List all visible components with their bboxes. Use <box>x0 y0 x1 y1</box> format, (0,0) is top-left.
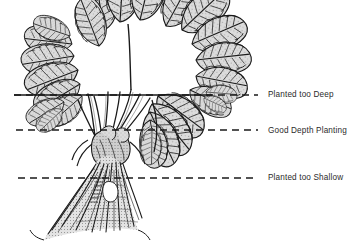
foliage-group <box>19 0 252 172</box>
planting-depth-figure: Planted too Deep Good Depth Planting Pla… <box>0 0 357 244</box>
strawberry-plant-illustration <box>0 0 357 244</box>
depth-label-good-depth: Good Depth Planting <box>268 126 347 136</box>
root-mass-group <box>30 156 150 240</box>
depth-label-too-shallow: Planted too Shallow <box>268 173 343 183</box>
depth-label-too-deep: Planted too Deep <box>268 90 334 100</box>
